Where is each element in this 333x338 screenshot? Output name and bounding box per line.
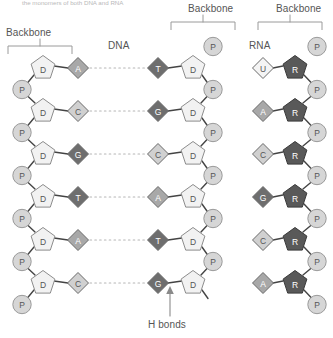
backbone-bracket-left bbox=[8, 46, 72, 54]
glycosidic-bond bbox=[168, 109, 182, 111]
glycosidic-bond bbox=[168, 281, 182, 283]
phosphate-left bbox=[13, 209, 31, 227]
h-bonds-arrow-head bbox=[166, 286, 174, 294]
glycosidic-bond bbox=[54, 109, 68, 111]
glycosidic-bond bbox=[273, 152, 283, 154]
phosphate-rna bbox=[308, 166, 326, 184]
base-dna-right bbox=[148, 101, 169, 122]
phosphate-left bbox=[13, 252, 31, 270]
glycosidic-bond bbox=[54, 238, 68, 240]
glycosidic-bond bbox=[273, 281, 283, 283]
backbone-bracket-middle bbox=[171, 22, 235, 30]
base-rna bbox=[253, 144, 274, 165]
glycosidic-bond bbox=[273, 66, 283, 68]
h-bonds-label: H bonds bbox=[148, 320, 186, 330]
dna-label: DNA bbox=[108, 41, 129, 51]
phosphate-right bbox=[204, 209, 222, 227]
base-rna bbox=[253, 273, 274, 294]
phosphate-rna bbox=[308, 252, 326, 270]
base-dna-left bbox=[68, 58, 89, 79]
phosphate-rna bbox=[308, 209, 326, 227]
base-dna-left bbox=[68, 187, 89, 208]
glycosidic-bond bbox=[273, 109, 283, 111]
phosphate-rna bbox=[308, 80, 326, 98]
phosphate-left bbox=[13, 80, 31, 98]
base-rna bbox=[253, 58, 274, 79]
base-dna-left bbox=[68, 273, 89, 294]
base-dna-left bbox=[68, 230, 89, 251]
base-dna-right bbox=[148, 273, 169, 294]
backbone-label-left: Backbone bbox=[6, 28, 51, 38]
glycosidic-bond bbox=[54, 195, 68, 197]
base-dna-right bbox=[148, 187, 169, 208]
base-dna-left bbox=[68, 101, 89, 122]
base-dna-right bbox=[148, 144, 169, 165]
diagram-canvas: the monomers of both DNA and RNA PPPPPPP… bbox=[0, 0, 333, 338]
phosphate-left bbox=[13, 295, 31, 313]
base-dna-left bbox=[68, 144, 89, 165]
base-rna bbox=[253, 101, 274, 122]
glycosidic-bond bbox=[168, 238, 182, 240]
glycosidic-bond bbox=[168, 195, 182, 197]
glycosidic-bond bbox=[273, 195, 283, 197]
glycosidic-bond bbox=[168, 152, 182, 154]
base-dna-right bbox=[148, 58, 169, 79]
phosphate-right bbox=[204, 37, 222, 55]
phosphate-right bbox=[204, 123, 222, 141]
base-rna bbox=[253, 187, 274, 208]
glycosidic-bond bbox=[54, 281, 68, 283]
sugar-dna-left bbox=[31, 56, 55, 79]
base-rna bbox=[253, 230, 274, 251]
glycosidic-bond bbox=[54, 66, 68, 68]
backbone-bracket-right bbox=[258, 22, 322, 30]
backbone-bond bbox=[202, 290, 208, 299]
sugar-dna-right bbox=[181, 56, 205, 79]
glycosidic-bond bbox=[54, 152, 68, 154]
rna-label: RNA bbox=[249, 41, 270, 51]
phosphate-right bbox=[204, 166, 222, 184]
phosphate-left bbox=[13, 166, 31, 184]
phosphate-rna bbox=[308, 37, 326, 55]
backbone-label-middle: Backbone bbox=[188, 4, 233, 14]
sugar-rna bbox=[283, 56, 307, 79]
backbone-label-right: Backbone bbox=[276, 4, 321, 14]
phosphate-right bbox=[204, 252, 222, 270]
nucleic-acid-diagram: PPPPPPPPPPPPPPPPPPPDDRATUDDRCGADDRGCCDDR… bbox=[0, 0, 333, 338]
base-dna-right bbox=[148, 230, 169, 251]
phosphate-rna bbox=[308, 295, 326, 313]
glycosidic-bond bbox=[273, 238, 283, 240]
glycosidic-bond bbox=[168, 66, 182, 68]
phosphate-rna bbox=[308, 123, 326, 141]
phosphate-right bbox=[204, 80, 222, 98]
phosphate-left bbox=[13, 123, 31, 141]
